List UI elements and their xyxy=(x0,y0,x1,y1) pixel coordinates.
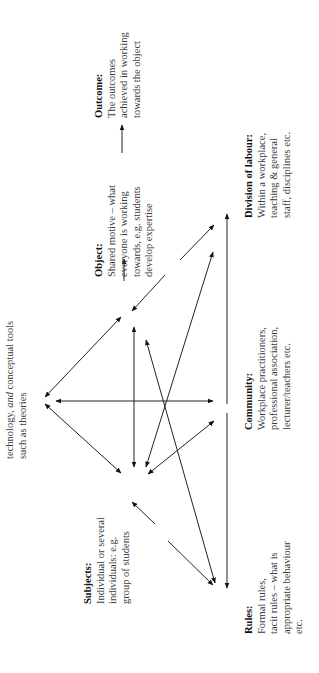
arrow-rules-object xyxy=(146,340,215,583)
division-title: Division of labour: xyxy=(243,132,256,218)
subjects-title: Subjects: xyxy=(82,517,95,604)
arrow-tools-subjects xyxy=(45,404,121,473)
node-tools: technology, and conceptual tools such as… xyxy=(4,321,29,459)
arrow-rules-subjects xyxy=(132,502,155,524)
node-rules: Rules: Formal rules, tacit rules – what … xyxy=(243,542,306,634)
outcome-line: towards the object xyxy=(131,32,144,118)
community-line: lecturer/teachers etc. xyxy=(281,327,294,430)
tools-line-1: technology, and conceptual tools xyxy=(4,321,17,459)
node-outcome: Outcome: The outcomes achieved in workin… xyxy=(93,32,143,118)
rules-line: Formal rules, xyxy=(256,542,269,634)
subjects-line: group of students xyxy=(120,517,133,604)
outcome-line: achieved in working xyxy=(118,32,131,118)
subjects-line: Individual or several xyxy=(95,517,108,604)
object-line: develop expertise xyxy=(143,185,156,277)
community-line: Workplace practitioners, xyxy=(256,327,269,430)
object-title: Object: xyxy=(93,185,106,277)
division-line: staff, disciplines etc. xyxy=(281,132,294,218)
object-line: Shared motive – what xyxy=(106,185,119,277)
rules-line: tacit rules – what is xyxy=(268,542,281,634)
community-title: Community: xyxy=(243,327,256,430)
subjects-line: individuals: e.g. xyxy=(107,517,120,604)
arrow-tools-object xyxy=(45,317,121,397)
rules-title: Rules: xyxy=(243,542,256,634)
tools-line-2: such as theories xyxy=(17,321,30,459)
node-subjects: Subjects: Individual or several individu… xyxy=(82,517,132,604)
object-line: everyone is working xyxy=(118,185,131,277)
arrow-division-object xyxy=(132,275,165,311)
division-line: Within a workplace, xyxy=(256,132,269,218)
outcome-line: The outcomes xyxy=(106,32,119,118)
node-division-of-labour: Division of labour: Within a workplace, … xyxy=(243,132,293,218)
division-line: teaching & general xyxy=(268,132,281,218)
object-line: towards, e.g. students xyxy=(131,185,144,277)
rules-line: appropriate behaviour xyxy=(281,542,294,634)
node-object: Object: Shared motive – what everyone is… xyxy=(93,185,156,277)
node-community: Community: Workplace practitioners, prof… xyxy=(243,327,293,430)
outcome-title: Outcome: xyxy=(93,32,106,118)
community-line: professional association, xyxy=(268,327,281,430)
rules-line: etc. xyxy=(293,542,306,634)
